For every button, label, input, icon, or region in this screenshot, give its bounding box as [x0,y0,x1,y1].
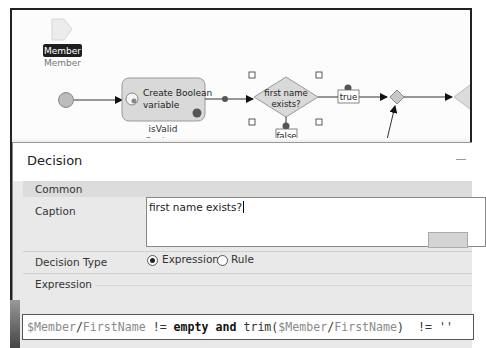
true-label[interactable]: true [338,90,359,103]
decision-caption-line1: first name [264,88,307,98]
dialog-title-bar[interactable]: Decision [13,143,472,181]
svg-text:true: true [340,92,357,102]
expression-token: FirstName [334,320,397,334]
selection-handle [249,72,255,78]
expression-token: and [216,320,237,334]
activity-title-line1: Create Boolean [143,88,212,98]
expression-token: ) != '' [397,320,453,334]
create-variable-icon [126,93,138,105]
section-expression-label: Expression [35,278,92,290]
flow-connector-dot [222,96,228,102]
caption-label: Caption [35,205,76,217]
microflow-canvas[interactable]: Member Member Create Boolean variable is… [12,10,472,148]
activity-title-line2: variable [143,100,180,110]
expression-token: $Member [27,320,76,334]
radio-expression-label[interactable]: Expression [162,253,219,265]
variable-name: isValid [149,124,178,134]
expression-token: $Member [278,320,327,334]
expression-token: empty [174,320,209,334]
parameter-name: Member [44,46,81,56]
dialog-title: Decision [27,153,82,168]
error-handler-dot [193,109,202,118]
decision-type-label: Decision Type [35,256,107,268]
expression-token: / [76,320,83,334]
merge-node[interactable] [390,90,404,104]
dialog-left-edge [10,300,20,348]
section-common-label: Common [35,183,82,195]
expression-token: trim( [236,320,278,334]
parameter-type: Member [44,58,81,68]
minimize-icon[interactable] [456,159,466,160]
expression-token: != [146,320,174,334]
expression-editor[interactable]: $Member/FirstName != empty and trim($Mem… [22,314,474,340]
next-decision-node[interactable] [454,82,472,112]
expression-token [209,320,216,334]
decision-caption-line2: exists? [271,99,300,109]
parameter-icon [52,19,72,40]
selection-handle [316,119,322,125]
radio-rule-label[interactable]: Rule [231,253,254,265]
radio-rule[interactable] [217,255,228,266]
parameter-member[interactable]: Member Member [43,19,82,68]
radio-expression[interactable] [147,255,158,266]
start-event[interactable] [59,93,74,108]
create-variable-activity[interactable]: Create Boolean variable isValid Boolean [122,78,212,146]
selection-handle [249,119,255,125]
expression-token: FirstName [83,320,146,334]
section-common-header [23,181,472,197]
expression-toolbar-button[interactable] [428,232,468,248]
selection-handle [316,72,322,78]
